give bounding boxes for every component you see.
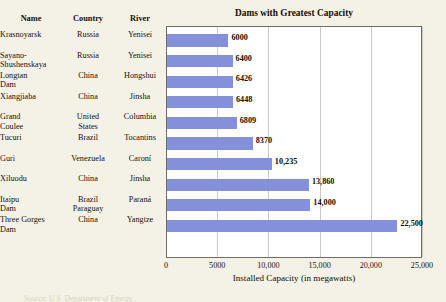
table-row: GrandCouleeUnitedStatesColumbia [0,112,166,133]
bar-value-label: 10,235 [275,157,298,166]
table-row: GuriVenezuelaCaroní [0,154,166,175]
cell-river: Jinsha [114,174,166,195]
bar-value-label: 22,500 [400,219,423,228]
source-caption: Source: U.S. Department of Energy [24,294,424,302]
bar-chart: Dams with Greatest Capacity 600064006426… [166,0,446,302]
column-header-name: Name [0,14,62,30]
bar[interactable] [167,137,253,149]
cell-name: Tucuri [0,133,62,154]
bar[interactable] [167,96,233,108]
plot-area: 60006400642664486809837010,23513,86014,0… [166,26,422,258]
table-row: Sayano-ShushenskayaRussiaYenisei [0,51,166,72]
bar-value-label: 8370 [256,136,272,145]
bar[interactable] [167,117,237,129]
table-row: Three GorgesDamChinaYangtze [0,215,166,236]
bar-row: 6448 [166,92,421,113]
dams-table: Name Country River KrasnoyarskRussiaYeni… [0,14,166,236]
x-tick-label: 10,000 [257,261,279,270]
bar-value-label: 6448 [236,95,252,104]
bar[interactable] [167,76,233,88]
bar[interactable] [167,179,309,191]
bar-row: 14,000 [166,195,421,216]
bar-value-label: 6400 [236,54,252,63]
bar[interactable] [167,220,397,232]
bar-row: 22,500 [166,216,421,237]
table-row: XiluoduChinaJinsha [0,174,166,195]
table-row: KrasnoyarskRussiaYenisei [0,30,166,51]
cell-river: Tocantins [114,133,166,154]
cell-name: Xiluodu [0,174,62,195]
cell-country: Venezuela [62,154,114,175]
bar[interactable] [167,199,310,211]
column-header-river: River [114,14,166,30]
bar-value-label: 6809 [240,116,256,125]
x-tick-label: 0 [164,261,168,270]
bar-row: 6000 [166,30,421,51]
cell-river: Paraná [114,195,166,216]
cell-name: Krasnoyarsk [0,30,62,51]
x-tick-label: 20,000 [360,261,382,270]
chart-title: Dams with Greatest Capacity [166,8,422,18]
cell-name: Three GorgesDam [0,215,62,236]
cell-river: Yenisei [114,30,166,51]
cell-country: Brazil [62,133,114,154]
cell-river: Yangtze [114,215,166,236]
cell-river: Yenisei [114,51,166,72]
cell-name: Guri [0,154,62,175]
cell-name: GrandCoulee [0,112,62,133]
bar-value-label: 14,000 [313,198,336,207]
table-header-row: Name Country River [0,14,166,30]
table-row: LongtanDamChinaHongshui [0,71,166,92]
column-header-country: Country [62,14,114,30]
screenshot-page: Name Country River KrasnoyarskRussiaYeni… [0,0,446,302]
cell-country: China [62,92,114,113]
bar[interactable] [167,158,272,170]
table-row: XiangjiabaChinaJinsha [0,92,166,113]
cell-country: UnitedStates [62,112,114,133]
cell-country: Russia [62,30,114,51]
cell-name: Sayano-Shushenskaya [0,51,62,72]
cell-country: China [62,215,114,236]
bar-value-label: 13,860 [312,177,335,186]
cell-country: Russia [62,51,114,72]
table-body: KrasnoyarskRussiaYeniseiSayano-Shushensk… [0,30,166,236]
cell-river: Columbia [114,112,166,133]
bar-row: 13,860 [166,174,421,195]
cell-country: China [62,174,114,195]
cell-river: Caroní [114,154,166,175]
x-axis-title: Installed Capacity (in megawatts) [166,273,422,283]
bar[interactable] [167,34,228,46]
bar[interactable] [167,55,233,67]
cell-name: LongtanDam [0,71,62,92]
x-tick-label: 15,000 [308,261,330,270]
x-tick-label: 25,000 [411,261,433,270]
bar-row: 10,235 [166,154,421,175]
bar-value-label: 6000 [231,33,247,42]
cell-river: Jinsha [114,92,166,113]
table-header: Name Country River [0,14,166,30]
x-tick-label: 5000 [209,261,225,270]
cell-country: China [62,71,114,92]
bar-row: 6400 [166,51,421,72]
bar-row: 8370 [166,133,421,154]
bar-row: 6809 [166,113,421,134]
table-row: TucuriBrazilTocantins [0,133,166,154]
cell-river: Hongshui [114,71,166,92]
cell-country: BrazilParaguay [62,195,114,216]
bar-value-label: 6426 [236,74,252,83]
bar-row: 6426 [166,71,421,92]
cell-name: Xiangjiaba [0,92,62,113]
dams-table-block: Name Country River KrasnoyarskRussiaYeni… [0,14,166,264]
table-row: ItaipuDamBrazilParaguayParaná [0,195,166,216]
cell-name: ItaipuDam [0,195,62,216]
